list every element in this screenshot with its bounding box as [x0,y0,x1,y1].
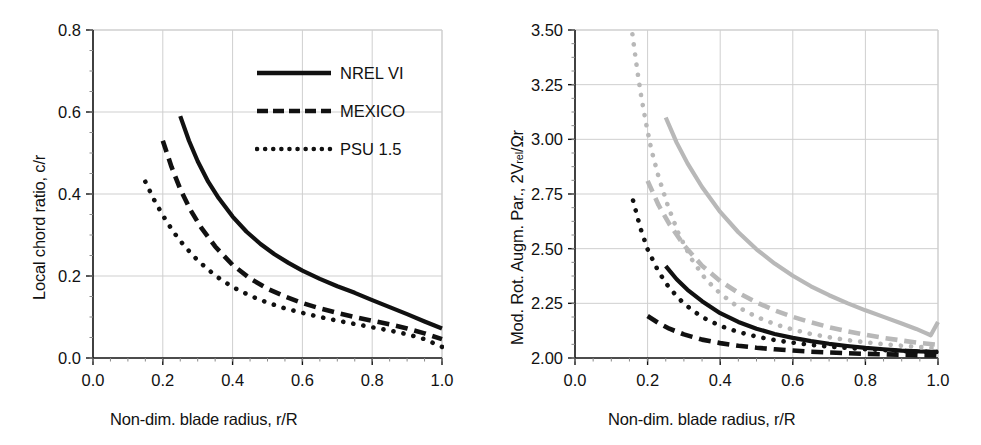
y-tick-label: 3.50 [531,21,563,39]
right-y-axis-title-subscript: rel [513,152,525,164]
y-tick-label: 0.8 [58,21,81,39]
figure-two-panel-chart: 0.00.20.40.60.81.00.00.20.40.60.8 Local … [0,0,981,445]
y-tick-label: 0.4 [58,185,81,203]
grid-lines [575,30,938,358]
right-plot-canvas: 0.00.20.40.60.81.02.002.252.502.753.003.… [490,0,981,445]
right-x-axis-title-text: Non-dim. blade radius, r/R [608,410,795,428]
legend-label-mexico: MEXICO [340,102,405,121]
x-tick-label: 0.6 [781,371,804,389]
legend-label-psu-15: PSU 1.5 [340,140,401,159]
legend-key-dashed-icon [255,104,333,118]
y-tick-label: 0.0 [58,349,81,367]
x-tick-label: 0.2 [636,371,659,389]
legend-label-nrel-vi: NREL VI [340,64,404,83]
legend-key-solid-icon [255,66,333,80]
x-tick-label: 0.8 [854,371,877,389]
left-x-axis-title-text: Non-dim. blade radius, r/R [110,410,297,428]
x-tick-label: 0.6 [291,371,314,389]
x-tick-label: 1.0 [431,371,454,389]
right-y-axis-title-main: Mod. Rot. Augm. Par., 2V [508,164,526,345]
y-tick-label: 3.00 [531,130,563,148]
y-tick-label: 0.2 [58,267,81,285]
y-tick-label: 2.00 [531,349,563,367]
x-tick-label: 0.4 [709,371,732,389]
x-tick-label: 1.0 [927,371,950,389]
x-tick-label: 0.4 [221,371,244,389]
left-y-axis-title: Local chord ratio, c/r [30,155,49,300]
y-tick-label: 2.50 [531,240,563,258]
y-tick-label: 2.25 [531,294,563,312]
series-group [629,4,938,356]
legend-item-psu-15: PSU 1.5 [255,138,401,160]
series-line [633,201,938,353]
tick-labels: 0.00.20.40.60.81.02.002.252.502.753.003.… [531,21,950,389]
x-tick-label: 0.8 [361,371,384,389]
left-y-axis-title-text: Local chord ratio, c/r [30,155,48,300]
left-x-axis-title: Non-dim. blade radius, r/R [110,410,297,429]
y-tick-label: 3.25 [531,76,563,94]
legend-key-dotted-icon [255,142,333,156]
x-tick-label: 0.2 [151,371,174,389]
left-plot-canvas: 0.00.20.40.60.81.00.00.20.40.60.8 [0,0,490,445]
legend-item-mexico: MEXICO [255,100,405,122]
right-x-axis-title: Non-dim. blade radius, r/R [608,410,795,429]
x-tick-label: 0.0 [564,371,587,389]
x-tick-label: 0.0 [82,371,105,389]
right-y-axis-title: Mod. Rot. Augm. Par., 2Vrel/Ωr [508,130,527,345]
legend-item-nrel-vi: NREL VI [255,62,404,84]
y-tick-label: 2.75 [531,185,563,203]
series-line [629,4,938,348]
right-y-axis-title-tail: /Ωr [508,130,526,152]
y-tick-label: 0.6 [58,103,81,121]
chart-panel-right: 0.00.20.40.60.81.02.002.252.502.753.003.… [490,0,981,445]
chart-panel-left: 0.00.20.40.60.81.00.00.20.40.60.8 Local … [0,0,490,445]
